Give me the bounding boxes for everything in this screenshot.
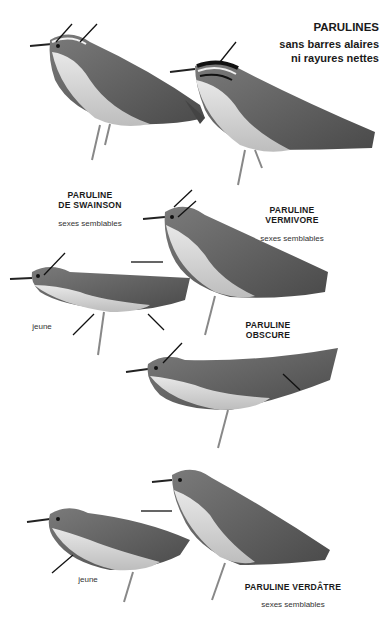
- bird-illustrations: [0, 0, 387, 636]
- juvenile-label: jeune: [22, 322, 62, 332]
- bird-swainson: [30, 24, 205, 160]
- subtitle-line-2: ni rayures nettes: [279, 52, 379, 66]
- species-name: PARULINE VERDÂTRE: [228, 582, 358, 592]
- species-note: sexes semblables: [228, 600, 358, 610]
- label-worm-eating: PARULINE VERMIVORE sexes semblables: [242, 205, 342, 243]
- species-name: PARULINE: [40, 190, 140, 200]
- species-name: OBSCURE: [228, 330, 308, 340]
- bird-orange-crowned-juvenile: [27, 508, 190, 602]
- plate-subtitle: sans barres alaires ni rayures nettes: [279, 38, 379, 66]
- field-guide-plate: PARULINES sans barres alaires ni rayures…: [0, 0, 387, 636]
- label-tennessee: PARULINE OBSCURE: [228, 320, 308, 341]
- species-name: PARULINE: [228, 320, 308, 330]
- species-name: VERMIVORE: [242, 215, 342, 225]
- subtitle-line-1: sans barres alaires: [279, 38, 379, 52]
- label-orange-crowned: PARULINE VERDÂTRE sexes semblables: [228, 582, 358, 610]
- plate-title: PARULINES: [313, 21, 379, 33]
- species-note: sexes semblables: [242, 234, 342, 244]
- bird-tennessee-lower: [126, 343, 338, 448]
- species-name: PARULINE: [242, 205, 342, 215]
- species-note: sexes semblables: [40, 219, 140, 229]
- bird-tennessee-juvenile: [10, 253, 190, 355]
- juvenile-label: jeune: [68, 575, 108, 585]
- species-name: DE SWAINSON: [40, 200, 140, 210]
- label-swainson: PARULINE DE SWAINSON sexes semblables: [40, 190, 140, 228]
